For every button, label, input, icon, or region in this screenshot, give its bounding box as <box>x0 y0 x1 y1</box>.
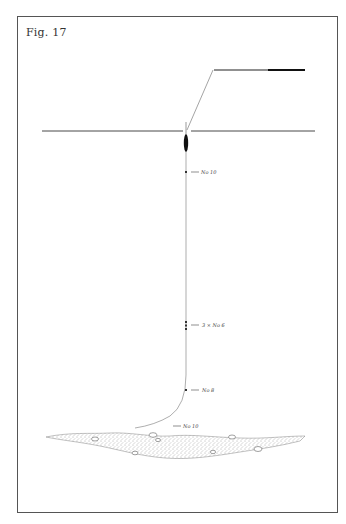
shot-label-no10-lower: No 10 <box>182 423 199 429</box>
fishing-line-lower <box>135 152 186 428</box>
shot-label-3xno6: 3 × No 6 <box>202 322 226 328</box>
shot-marker-3: No 8 <box>185 387 214 393</box>
shot-marker-2: 3 × No 6 <box>185 321 226 330</box>
shot-marker-4: No 10 <box>173 423 199 429</box>
river-bed <box>46 433 305 459</box>
fishing-line-upper <box>187 70 213 130</box>
shot-marker-1: No 10 <box>185 169 217 175</box>
rig-diagram: No 10 3 × No 6 No 8 No 10 <box>0 0 346 524</box>
float-icon <box>184 122 188 152</box>
shot-label-no8: No 8 <box>201 387 214 393</box>
shot-label-no10-upper: No 10 <box>200 169 217 175</box>
